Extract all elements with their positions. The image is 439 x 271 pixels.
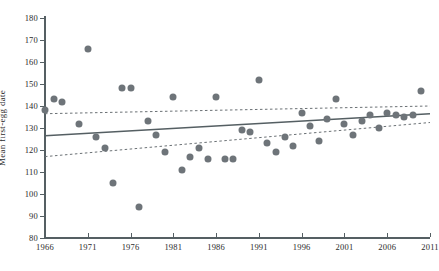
y-axis-tick — [40, 62, 44, 63]
x-axis-tick-label: 2011 — [421, 242, 439, 252]
data-point — [255, 76, 262, 83]
data-point — [127, 85, 134, 92]
data-point — [161, 149, 168, 156]
data-point — [93, 133, 100, 140]
data-point — [110, 180, 117, 187]
y-axis-tick-label: 150 — [25, 79, 38, 89]
data-point — [392, 111, 399, 118]
y-axis-tick-label: 120 — [25, 145, 38, 155]
x-axis-tick-label: 2001 — [336, 242, 354, 252]
x-axis-tick-label: 1986 — [207, 242, 225, 252]
data-point — [119, 85, 126, 92]
x-axis-tick — [430, 233, 431, 237]
y-axis-tick — [40, 40, 44, 41]
data-point — [136, 204, 143, 211]
data-point — [50, 96, 57, 103]
data-point — [204, 155, 211, 162]
y-axis-tick — [40, 172, 44, 173]
data-point — [238, 127, 245, 134]
y-axis-tick — [40, 194, 44, 195]
y-axis-tick-label: 110 — [25, 167, 38, 177]
data-point — [42, 107, 49, 114]
data-point — [187, 153, 194, 160]
data-point — [281, 133, 288, 140]
data-point — [290, 142, 297, 149]
data-point — [178, 166, 185, 173]
data-point — [247, 129, 254, 136]
y-axis-tick-label: 170 — [25, 35, 38, 45]
x-axis-tick-label: 1991 — [250, 242, 268, 252]
x-axis-tick-label: 1981 — [164, 242, 182, 252]
y-axis-tick — [40, 238, 44, 239]
y-axis-tick — [40, 216, 44, 217]
x-axis-tick-label: 1976 — [122, 242, 140, 252]
data-point — [76, 120, 83, 127]
y-axis-tick — [40, 84, 44, 85]
data-point — [409, 111, 416, 118]
data-point — [196, 144, 203, 151]
data-point — [59, 98, 66, 105]
data-point — [307, 122, 314, 129]
data-point — [358, 118, 365, 125]
data-point — [315, 138, 322, 145]
data-point — [350, 131, 357, 138]
data-point — [84, 45, 91, 52]
data-point — [230, 155, 237, 162]
x-axis-tick-label: 1971 — [79, 242, 97, 252]
data-point — [170, 94, 177, 101]
data-point — [401, 114, 408, 121]
x-axis-tick-label: 1966 — [36, 242, 54, 252]
y-axis-tick-label: 140 — [25, 101, 38, 111]
data-point — [324, 116, 331, 123]
data-point — [144, 118, 151, 125]
data-point — [213, 94, 220, 101]
y-axis-tick-label: 90 — [29, 211, 38, 221]
x-axis-tick-label: 2006 — [378, 242, 396, 252]
y-axis-tick — [40, 128, 44, 129]
data-points-layer — [45, 18, 430, 238]
data-point — [264, 140, 271, 147]
y-axis-tick-label: 180 — [25, 13, 38, 23]
data-point — [332, 96, 339, 103]
x-axis-tick-label: 1996 — [293, 242, 311, 252]
data-point — [273, 149, 280, 156]
data-point — [298, 109, 305, 116]
data-point — [418, 87, 425, 94]
y-axis-tick-label: 160 — [25, 57, 38, 67]
data-point — [384, 109, 391, 116]
data-point — [153, 131, 160, 138]
y-axis-tick-label: 130 — [25, 123, 38, 133]
y-axis-tick-label: 100 — [25, 189, 38, 199]
y-axis-tick — [40, 18, 44, 19]
y-axis-tick-labels: 8090100110120130140150160170180 — [0, 0, 38, 271]
data-point — [367, 111, 374, 118]
y-axis-tick — [40, 150, 44, 151]
data-point — [221, 155, 228, 162]
data-point — [375, 125, 382, 132]
data-point — [341, 120, 348, 127]
data-point — [101, 144, 108, 151]
